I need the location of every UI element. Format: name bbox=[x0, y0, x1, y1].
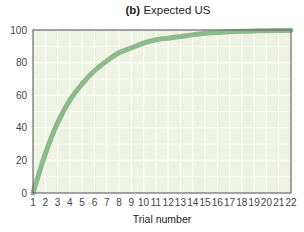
x-tick-label: 4 bbox=[67, 197, 73, 208]
x-tick-label: 22 bbox=[285, 197, 297, 208]
x-tick-label: 5 bbox=[79, 197, 85, 208]
y-tick-label: 40 bbox=[16, 122, 28, 133]
x-tick-label: 12 bbox=[163, 197, 175, 208]
y-tick-label: 100 bbox=[10, 25, 27, 36]
x-tick-label: 11 bbox=[151, 197, 162, 208]
y-tick-label: 0 bbox=[21, 188, 27, 199]
x-tick-label: 10 bbox=[138, 197, 150, 208]
x-tick-label: 17 bbox=[224, 197, 236, 208]
x-tick-label: 9 bbox=[129, 197, 135, 208]
x-tick-label: 15 bbox=[199, 197, 211, 208]
x-tick-label: 14 bbox=[187, 197, 199, 208]
x-tick-label: 16 bbox=[212, 197, 224, 208]
plot-area: 0204060801001234567891011121314151617181… bbox=[0, 0, 304, 232]
x-tick-label: 7 bbox=[104, 197, 110, 208]
x-tick-label: 2 bbox=[43, 197, 49, 208]
x-tick-label: 1 bbox=[30, 197, 36, 208]
x-tick-label: 18 bbox=[236, 197, 248, 208]
y-tick-label: 60 bbox=[16, 90, 28, 101]
x-tick-label: 13 bbox=[175, 197, 187, 208]
chart: (b) Expected US 020406080100123456789101… bbox=[0, 0, 304, 232]
x-tick-label: 20 bbox=[261, 197, 273, 208]
y-tick-label: 80 bbox=[16, 57, 28, 68]
x-tick-label: 3 bbox=[55, 197, 61, 208]
y-tick-label: 20 bbox=[16, 155, 28, 166]
x-tick-label: 21 bbox=[273, 197, 285, 208]
x-tick-label: 6 bbox=[92, 197, 98, 208]
x-tick-label: 19 bbox=[249, 197, 261, 208]
x-tick-label: 8 bbox=[116, 197, 122, 208]
x-axis-label: Trial number bbox=[133, 213, 192, 225]
